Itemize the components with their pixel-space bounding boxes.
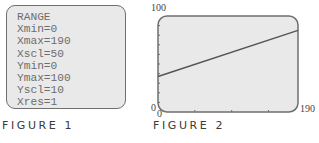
figure-1-caption: FIGURE 1: [2, 119, 74, 132]
range-xres: Xres=1: [17, 96, 71, 108]
range-yscl: Yscl=10: [17, 84, 71, 96]
range-xmin: Xmin=0: [17, 23, 71, 35]
y-min-label: 0: [151, 102, 156, 113]
range-ymin: Ymin=0: [17, 60, 71, 72]
calculator-range-screen: RANGE Xmin=0 Xmax=190 Xscl=50 Ymin=0 Yma…: [6, 5, 126, 109]
range-xmax: Xmax=190: [17, 35, 71, 47]
graph-frame: [158, 16, 298, 112]
range-settings-list: RANGE Xmin=0 Xmax=190 Xscl=50 Ymin=0 Yma…: [17, 11, 71, 109]
range-xscl: Xscl=50: [17, 48, 71, 60]
range-ymax: Ymax=100: [17, 72, 71, 84]
figure-2-caption: FIGURE 2: [153, 119, 225, 132]
graph-screen: [157, 15, 299, 113]
y-max-label: 100: [151, 2, 166, 13]
range-title: RANGE: [17, 11, 71, 23]
figure-2-graph: 100 0 0 190: [150, 0, 319, 118]
x-max-label: 190: [300, 103, 315, 114]
